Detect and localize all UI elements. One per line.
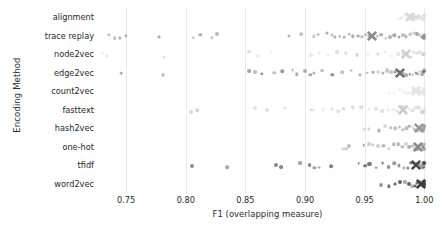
- data-point: [423, 166, 426, 169]
- data-point: [383, 124, 387, 128]
- data-point: [274, 163, 278, 167]
- data-point: [334, 36, 337, 39]
- gridline-0.85: [245, 8, 246, 193]
- data-point: [253, 70, 257, 74]
- data-point: [393, 91, 396, 94]
- x-tick-1.00: 1.00: [415, 195, 433, 205]
- data-point: [265, 108, 269, 112]
- data-point: [308, 163, 312, 167]
- data-point: [351, 105, 355, 109]
- data-point: [283, 106, 286, 109]
- data-point: [387, 185, 390, 188]
- mean-marker-x: [410, 159, 423, 172]
- gridline-0.90: [305, 8, 306, 193]
- data-point: [391, 108, 395, 112]
- data-point: [423, 70, 426, 73]
- data-point: [225, 165, 229, 169]
- data-point: [317, 33, 320, 36]
- data-point: [253, 106, 257, 110]
- data-point: [256, 54, 260, 58]
- data-point: [190, 164, 194, 168]
- data-point: [380, 33, 384, 37]
- y-tick-node2vec: node2vec: [54, 49, 94, 59]
- data-point: [279, 165, 283, 169]
- data-point: [215, 32, 219, 36]
- data-point: [308, 73, 311, 76]
- data-point: [210, 36, 213, 39]
- data-point: [423, 92, 427, 96]
- y-tick-hash2vec: hash2vec: [55, 123, 94, 133]
- mean-marker-x: [396, 103, 409, 116]
- data-point: [382, 144, 385, 147]
- data-point: [393, 183, 396, 186]
- data-point: [326, 32, 329, 35]
- data-point: [120, 72, 123, 75]
- y-tick-one-hot: one-hot: [62, 142, 94, 152]
- data-point: [380, 109, 384, 113]
- data-point: [347, 144, 351, 148]
- data-point: [366, 71, 369, 74]
- data-point: [394, 127, 398, 131]
- data-point: [196, 108, 199, 111]
- data-point: [342, 107, 345, 110]
- data-point: [101, 52, 104, 55]
- data-point: [397, 164, 400, 167]
- mean-marker-x: [412, 140, 425, 153]
- data-point: [401, 145, 404, 148]
- data-point: [375, 167, 378, 170]
- y-tick-word2vec: word2vec: [54, 179, 94, 189]
- data-point: [387, 147, 391, 151]
- data-point: [344, 51, 347, 54]
- y-tick-trace-replay: trace replay: [45, 31, 94, 41]
- data-point: [320, 69, 324, 73]
- data-point: [298, 161, 302, 165]
- data-point: [113, 36, 117, 40]
- data-point: [398, 88, 401, 91]
- data-point: [295, 72, 298, 75]
- mean-marker-x: [415, 177, 428, 190]
- data-point: [376, 52, 379, 55]
- y-tick-tfidf: tfidf: [78, 160, 94, 170]
- chart-figure: Encoding Method alignmenttrace replaynod…: [0, 0, 443, 231]
- data-point: [397, 35, 400, 38]
- data-point: [313, 71, 316, 74]
- mean-marker-x: [412, 122, 425, 135]
- data-point: [423, 110, 426, 113]
- data-point: [398, 126, 401, 129]
- data-point: [398, 180, 402, 184]
- data-point: [405, 35, 408, 38]
- data-point: [321, 108, 324, 111]
- y-axis-tick-labels: alignmenttrace replaynode2vecedge2veccou…: [24, 8, 98, 193]
- data-point: [270, 51, 273, 54]
- data-point: [309, 53, 313, 57]
- data-point: [199, 33, 202, 36]
- y-tick-fasttext: fasttext: [62, 105, 94, 115]
- data-point: [389, 126, 393, 130]
- data-point: [386, 108, 389, 111]
- x-tick-0.80: 0.80: [177, 195, 195, 205]
- data-point: [371, 143, 375, 147]
- data-point: [367, 128, 370, 131]
- data-point: [381, 72, 384, 75]
- mean-marker-x: [400, 48, 413, 61]
- data-point: [329, 164, 333, 168]
- data-point: [423, 17, 426, 20]
- y-axis-label-text: Encoding Method: [12, 57, 22, 132]
- data-point: [372, 71, 375, 74]
- data-point: [392, 142, 396, 146]
- data-point: [350, 69, 353, 72]
- data-point: [291, 69, 294, 72]
- x-tick-0.95: 0.95: [356, 195, 374, 205]
- data-point: [387, 92, 390, 95]
- data-point: [287, 35, 290, 38]
- data-point: [318, 166, 321, 169]
- data-point: [358, 74, 361, 77]
- data-point: [384, 50, 387, 53]
- mean-marker-x: [393, 66, 406, 79]
- data-point: [338, 35, 341, 38]
- data-point: [105, 54, 109, 58]
- data-point: [367, 162, 371, 166]
- data-point: [423, 88, 426, 91]
- data-point: [393, 33, 396, 36]
- data-point: [368, 108, 371, 111]
